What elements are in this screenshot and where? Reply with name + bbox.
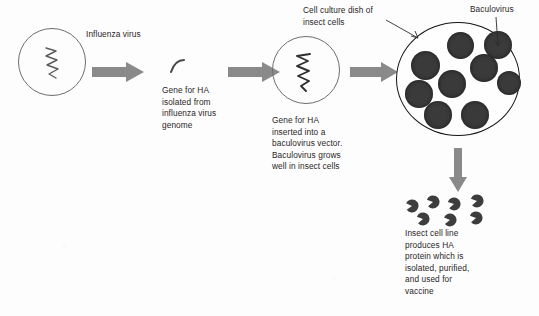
ha-protein-molecule-icon [443,213,457,227]
cell-culture-dish-leader-line [384,18,426,42]
ha-protein-molecule-icon [426,195,440,209]
insect-cell [470,54,498,82]
insect-cell-line-label: Insect cell line produces HA protein whi… [405,228,469,298]
arrow-virus-to-gene-icon [92,62,144,82]
ha-protein-molecule-icon [447,197,461,211]
insect-cell [411,51,440,80]
baculovirus-label: Baculovirus [470,4,514,16]
gene-isolated-label: Gene for HA isolated from influenza viru… [162,85,216,131]
ha-protein-molecule-icon [405,199,419,213]
baculovirus-leader-line [490,17,504,49]
baculovirus-genome-squiggle-icon [288,48,326,94]
ha-gene-fragment-icon [168,58,190,76]
ha-protein-molecule-icon [470,194,484,208]
cell-culture-dish-label: Cell culture dish of insect cells [303,5,373,28]
ha-protein-molecule-icon [469,211,483,225]
arrow-dish-to-protein-icon [449,148,467,192]
insect-cell [438,70,466,98]
arrow-vector-to-dish-icon [350,62,398,82]
insect-cell [447,32,474,59]
influenza-genome-squiggle-icon [36,42,72,84]
gene-inserted-label: Gene for HA inserted into a baculovirus … [272,115,342,173]
insect-cell [497,71,521,95]
diagram-canvas: Influenza virus Gene for HA isolated fro… [0,0,539,316]
insect-cell [424,101,452,129]
ha-protein-molecule-icon [416,212,430,226]
influenza-virus-label: Influenza virus [86,29,141,41]
insect-cell [461,101,489,129]
